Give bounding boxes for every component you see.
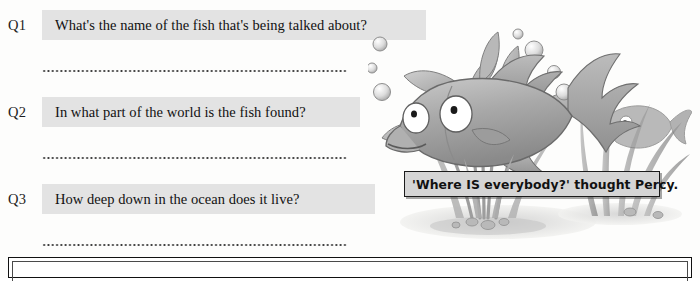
- question-row: Q3 How deep down in the ocean does it li…: [0, 184, 375, 214]
- question-row: Q1 What's the name of the fish that's be…: [0, 10, 426, 40]
- question-text: In what part of the world is the fish fo…: [55, 104, 306, 121]
- illustration-caption: 'Where IS everybody?' thought Percy.: [404, 171, 660, 197]
- sea-floor: [400, 203, 682, 239]
- answer-frame-inner: [12, 261, 688, 281]
- question-number: Q2: [8, 104, 42, 121]
- question-band: How deep down in the ocean does it live?: [42, 184, 375, 214]
- answer-line[interactable]: [42, 157, 348, 159]
- question-text: How deep down in the ocean does it live?: [55, 191, 299, 208]
- question-row: Q2 In what part of the world is the fish…: [0, 97, 360, 127]
- question-band: In what part of the world is the fish fo…: [42, 97, 360, 127]
- question-text: What's the name of the fish that's being…: [55, 17, 367, 34]
- caption-text: 'Where IS everybody?' thought Percy.: [412, 177, 678, 192]
- answer-frame[interactable]: [8, 257, 692, 278]
- answer-line[interactable]: [42, 244, 348, 246]
- answer-line[interactable]: [42, 70, 348, 72]
- question-number: Q3: [8, 191, 42, 208]
- question-number: Q1: [8, 17, 42, 34]
- fish-illustration: [368, 26, 692, 248]
